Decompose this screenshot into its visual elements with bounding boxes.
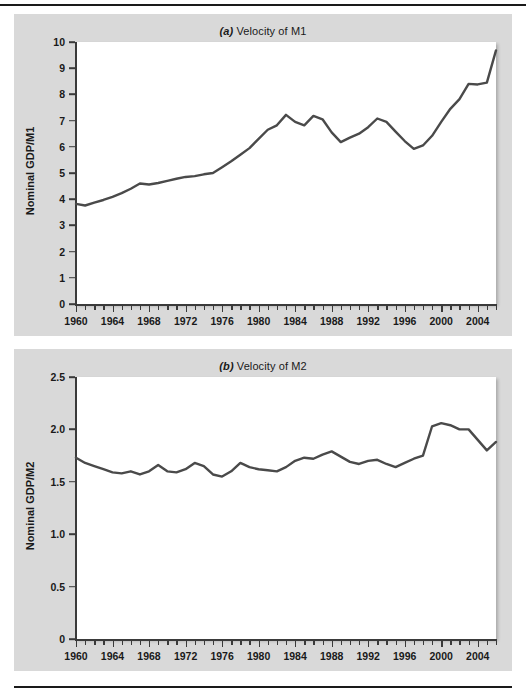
y-axis-label-m2: Nominal GDP/M2: [24, 375, 36, 637]
chart-panel-m1: (a) Velocity of M1 012345678910196019641…: [14, 14, 512, 336]
top-rule: [0, 4, 526, 6]
series-line-m1: [14, 14, 512, 336]
y-axis-label-m1: Nominal GDP/M1: [24, 40, 36, 302]
bottom-rule: [14, 686, 512, 688]
figure-page: (a) Velocity of M1 012345678910196019641…: [0, 0, 526, 695]
chart-panel-m2: (b) Velocity of M2 00.51.01.52.02.519601…: [14, 349, 512, 671]
plot-wrapper-m2: 00.51.01.52.02.5196019641968197219761980…: [14, 349, 512, 671]
plot-wrapper-m1: 0123456789101960196419681972197619801984…: [14, 14, 512, 336]
series-line-m2: [14, 349, 512, 671]
